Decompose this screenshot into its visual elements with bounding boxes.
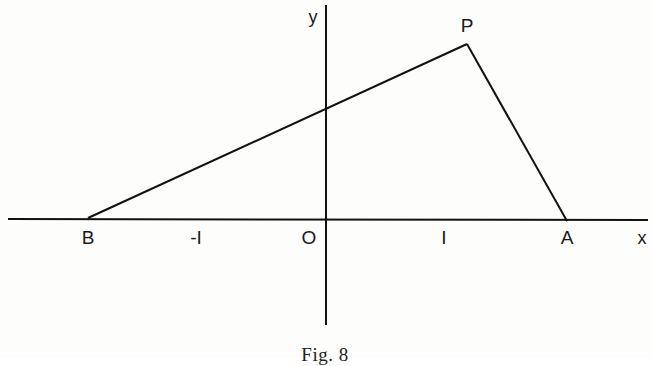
figure-caption: Fig. 8 <box>301 344 348 366</box>
segment-bp <box>88 44 467 218</box>
segment-pa <box>467 44 567 221</box>
origin-label: O <box>302 228 317 247</box>
tick-label-one: I <box>441 228 446 247</box>
point-b-label: B <box>82 228 95 247</box>
x-axis-label: x <box>638 229 647 247</box>
tick-label-minus-one: -I <box>190 228 202 247</box>
point-a-label: A <box>561 228 574 247</box>
y-axis-label: y <box>309 8 318 26</box>
point-p-label: P <box>461 16 474 35</box>
x-axis <box>8 219 648 220</box>
